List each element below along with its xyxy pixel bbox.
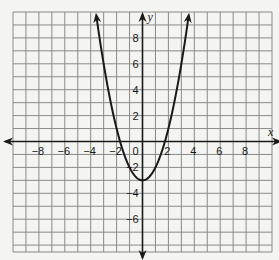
svg-text:−4: −4 (126, 187, 139, 199)
svg-text:−6: −6 (126, 213, 139, 225)
svg-text:−4: −4 (83, 145, 96, 157)
svg-text:2: 2 (164, 145, 170, 157)
x-axis-label: x (267, 125, 274, 139)
svg-text:4: 4 (132, 84, 138, 96)
svg-text:−8: −8 (32, 145, 45, 157)
svg-text:−6: −6 (58, 145, 71, 157)
svg-text:6: 6 (216, 145, 222, 157)
y-axis-label: y (147, 10, 154, 24)
svg-text:8: 8 (242, 145, 248, 157)
coordinate-plane: −8−6−4−224688642−2−4−60 x y (0, 0, 279, 260)
axes (3, 12, 279, 260)
svg-text:2: 2 (132, 110, 138, 122)
svg-text:8: 8 (132, 32, 138, 44)
svg-text:−2: −2 (109, 145, 122, 157)
svg-text:6: 6 (132, 58, 138, 70)
svg-text:0: 0 (132, 145, 138, 157)
svg-text:4: 4 (190, 145, 196, 157)
